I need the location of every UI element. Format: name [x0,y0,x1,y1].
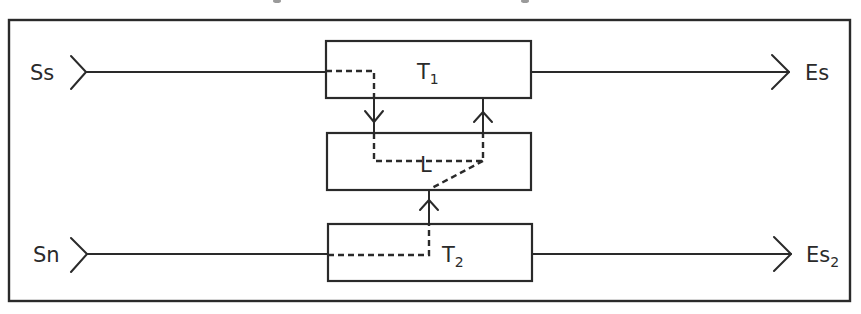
block-t1[interactable]: T1 [326,41,531,98]
output-es2-label: Es2 [806,243,839,270]
chevron-input-icon [71,56,86,89]
block-diagram: Ss T1 Es L Sn T2 Es2 [0,0,861,314]
input-sn-label: Sn [33,243,60,267]
input-sn: Sn [33,238,87,272]
clipped-caption-fragments [273,0,529,3]
input-ss: Ss [30,56,86,89]
input-ss-label: Ss [30,61,54,85]
output-es-label: Es [805,61,829,85]
block-l-label: L [420,153,432,177]
chevron-input-icon [71,238,87,272]
